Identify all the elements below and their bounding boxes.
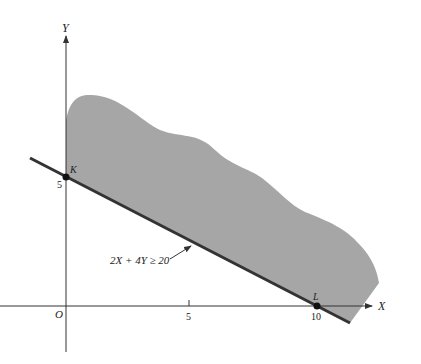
point-l [314,303,321,310]
feasible-region-diagram: Y X O 5 10 5 K L 2X + 4Y ≥ 20 [0,0,421,364]
x-tick-label-10: 10 [311,311,321,322]
feasible-region [30,95,379,323]
point-k [63,174,70,181]
point-l-label: L [312,291,319,302]
origin-label: O [55,308,63,320]
label-pointer-arrow [170,246,191,259]
y-axis-label: Y [62,21,70,35]
point-k-label: K [69,164,78,175]
constraint-label: 2X + 4Y ≥ 20 [110,254,170,266]
x-axis-label: X [377,299,386,313]
y-tick-label-5: 5 [57,179,62,190]
x-tick-label-5: 5 [186,311,191,322]
